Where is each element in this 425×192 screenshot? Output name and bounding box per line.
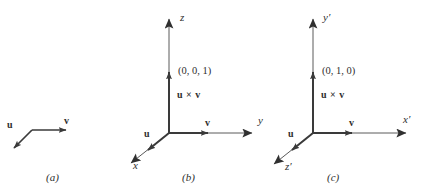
vector-label-v-a: v <box>64 116 69 126</box>
panel-a-graphics <box>14 130 66 148</box>
coordinate-label-c: (0, 1, 0) <box>322 66 355 77</box>
vector-u-arrow-a <box>14 130 32 148</box>
vector-label-u-c: u <box>288 129 294 139</box>
panel-caption-c: (c) <box>327 172 339 183</box>
vector-label-u-b: u <box>144 129 150 139</box>
vector-label-v-b: v <box>205 118 210 128</box>
cross-product-label-c: u × v <box>321 90 345 100</box>
vector-cross-product-figure: u v (a) z y x (0, 0, 1) u × v u v (b) y′… <box>0 0 425 192</box>
panel-caption-b: (b) <box>182 172 195 183</box>
axis-label-x-b: x <box>133 160 138 171</box>
axis-label-x-prime-c: x′ <box>403 114 410 125</box>
vector-u-arrow-b <box>148 133 169 150</box>
axis-label-y-b: y <box>258 115 263 126</box>
axis-label-y-prime-c: y′ <box>323 12 330 23</box>
cross-product-label-b: u × v <box>177 90 201 100</box>
vector-u-arrow-c <box>292 133 313 150</box>
coordinate-label-b: (0, 0, 1) <box>178 66 211 77</box>
axis-label-z-b: z <box>180 12 184 23</box>
vector-label-u-a: u <box>7 120 13 130</box>
axis-label-z-prime-c: z′ <box>285 161 292 172</box>
panel-caption-a: (a) <box>46 172 59 183</box>
figure-vector-graphics <box>0 0 425 192</box>
vector-label-v-c: v <box>349 118 354 128</box>
